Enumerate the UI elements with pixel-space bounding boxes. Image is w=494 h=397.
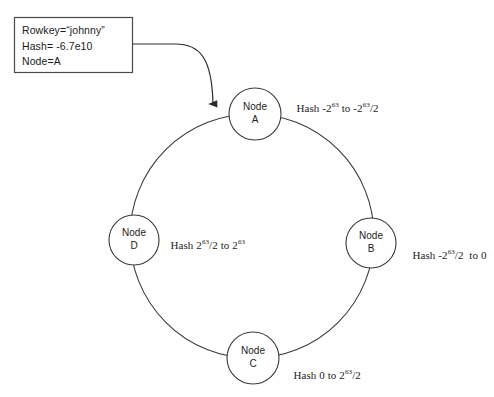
callout-text: Rowkey=“johnny” Hash= -6.7e10 Node=A [22,23,132,70]
node-a-range-mid: to -2 [339,102,363,114]
node-b-range-label: Hash -263/2 to 0 [401,237,487,273]
node-a-range-exp1: 63 [332,101,339,109]
node-a-label: Node A [230,101,280,126]
node-d-range-exp1: 63 [202,238,209,246]
node-b-range-suffix: to 0 [464,249,487,261]
callout-node: Node=A [22,54,132,70]
callout-hash: Hash= -6.7e10 [22,39,132,55]
node-d-label: Node D [109,227,159,252]
node-b-label: Node B [346,230,396,255]
callout-rowkey: Rowkey=“johnny” [22,23,132,39]
node-a-range-suffix: /2 [370,102,379,114]
node-c-id: C [228,358,278,371]
node-b-id: B [346,243,396,256]
node-c-range-suffix: /2 [352,369,361,381]
node-c-range-prefix: Hash 0 to 2 [293,369,345,381]
node-d-name: Node [109,227,159,240]
node-d-range-prefix: Hash 2 [170,239,201,251]
node-a-range-exp2: 63 [363,101,370,109]
node-a-id: A [230,114,280,127]
node-c-name: Node [228,345,278,358]
node-c-label: Node C [228,345,278,370]
node-b-range-exp1: 63 [448,248,455,256]
node-a-range-label: Hash -263 to -263/2 [285,90,379,126]
node-c-range-label: Hash 0 to 263/2 [282,357,361,393]
diagram-canvas: Rowkey=“johnny” Hash= -6.7e10 Node=A Nod… [0,0,494,397]
node-a-range-prefix: Hash -2 [296,102,331,114]
node-d-range-label: Hash 263/2 to 263 [159,227,245,263]
node-a-name: Node [230,101,280,114]
node-b-name: Node [346,230,396,243]
node-d-range-exp2: 63 [238,238,245,246]
node-b-range-mid: /2 [455,249,464,261]
node-d-id: D [109,240,159,253]
callout-connector-arrow [133,44,213,104]
node-b-range-prefix: Hash -2 [412,249,447,261]
node-d-range-mid: /2 to 2 [209,239,238,251]
